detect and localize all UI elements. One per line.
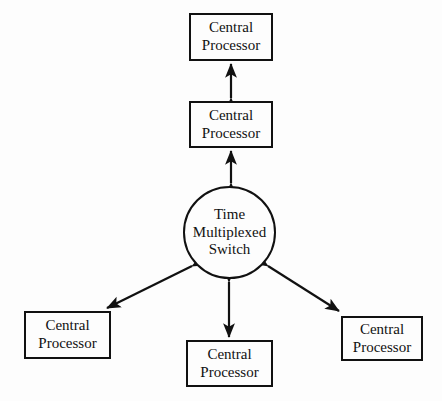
- node-time-multiplexed-switch: Time Multiplexed Switch: [183, 186, 276, 279]
- node-cpu-bottom-right: Central Processor: [341, 316, 423, 361]
- node-label-line2: Processor: [200, 364, 258, 382]
- node-label-line3: Switch: [209, 241, 251, 259]
- node-label-line2: Multiplexed: [193, 224, 266, 242]
- node-label-line1: Time: [214, 206, 245, 224]
- node-label-line1: Central: [360, 321, 404, 339]
- node-label-line1: Central: [207, 346, 251, 364]
- node-cpu-second: Central Processor: [189, 101, 273, 148]
- node-label-line1: Central: [209, 19, 253, 37]
- node-cpu-top: Central Processor: [189, 13, 273, 61]
- node-label-line1: Central: [209, 107, 253, 125]
- node-cpu-bottom-left: Central Processor: [24, 311, 111, 359]
- node-label-line2: Processor: [38, 335, 96, 353]
- node-label-line2: Processor: [202, 125, 260, 143]
- diagram-canvas: cpu_top : vertical double-headed arrow -…: [0, 0, 442, 401]
- node-label-line2: Processor: [353, 339, 411, 357]
- node-label-line2: Processor: [202, 37, 260, 55]
- connector-switch-to-bottom-right: [268, 266, 339, 311]
- node-label-line1: Central: [45, 317, 89, 335]
- connector-switch-to-bottom-left: [107, 266, 192, 308]
- node-cpu-bottom-center: Central Processor: [186, 340, 273, 387]
